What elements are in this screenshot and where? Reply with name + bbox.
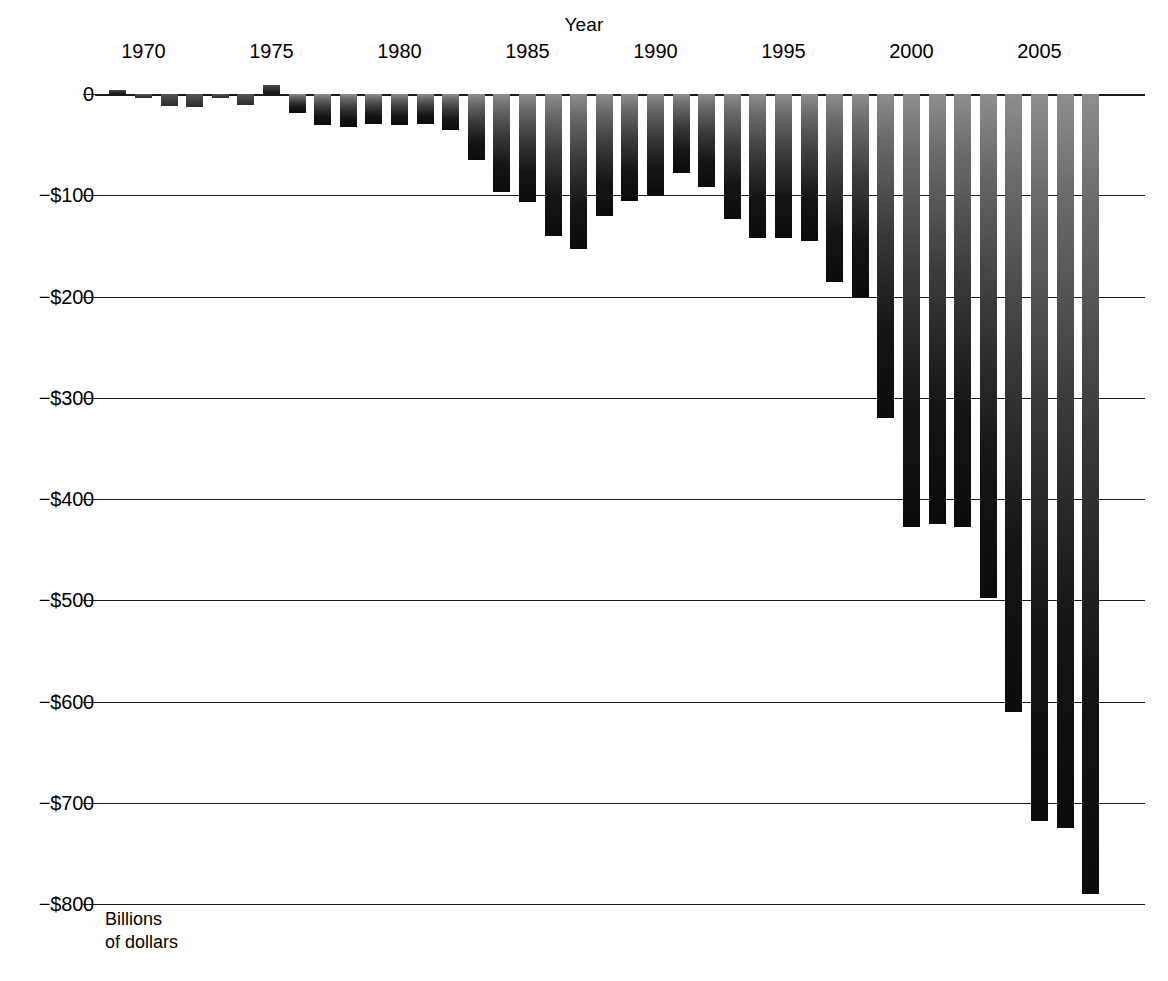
bar-1969 (109, 90, 126, 94)
bar-1983 (468, 94, 485, 160)
gridline--600 (95, 702, 1145, 703)
bar-1984 (493, 94, 510, 192)
x-tick-label-1990: 1990 (633, 40, 678, 63)
bar-1997 (826, 94, 843, 282)
y-tick-mark--500 (83, 600, 95, 601)
bar-1998 (852, 94, 869, 297)
bar-1985 (519, 94, 536, 202)
bar-2006 (1057, 94, 1074, 828)
x-tick-label-1985: 1985 (505, 40, 550, 63)
bar-1986 (545, 94, 562, 236)
y-tick-mark--800 (83, 904, 95, 905)
bar-1988 (596, 94, 613, 216)
bar-1973 (212, 94, 229, 98)
bar-1978 (340, 94, 357, 127)
x-tick-label-1995: 1995 (761, 40, 806, 63)
bar-1991 (673, 94, 690, 173)
bar-1981 (417, 94, 434, 124)
bar-2004 (1005, 94, 1022, 712)
x-tick-label-1970: 1970 (121, 40, 166, 63)
bar-1989 (621, 94, 638, 201)
bar-1987 (570, 94, 587, 249)
bar-2000 (903, 94, 920, 527)
y-tick-mark--300 (83, 398, 95, 399)
gridline--500 (95, 600, 1145, 601)
deficit-bar-chart: Year 19701975198019851990199520002005 0−… (0, 0, 1168, 981)
bar-1995 (775, 94, 792, 238)
bar-1971 (161, 94, 178, 106)
bar-1992 (698, 94, 715, 187)
bar-1994 (749, 94, 766, 238)
x-tick-label-1975: 1975 (249, 40, 294, 63)
bar-1993 (724, 94, 741, 219)
y-tick-mark--400 (83, 499, 95, 500)
bar-1972 (186, 94, 203, 107)
y-axis-unit-label: Billions of dollars (105, 908, 178, 954)
y-tick-mark-0 (83, 94, 95, 95)
bar-2002 (954, 94, 971, 527)
bar-1999 (877, 94, 894, 418)
gridline--700 (95, 803, 1145, 804)
gridline--800 (95, 904, 1145, 905)
y-tick-mark--700 (83, 803, 95, 804)
bar-1996 (801, 94, 818, 241)
bar-1970 (135, 94, 152, 98)
bar-1974 (237, 94, 254, 105)
bar-1977 (314, 94, 331, 125)
x-tick-label-2005: 2005 (1017, 40, 1062, 63)
x-tick-label-1980: 1980 (377, 40, 422, 63)
bar-2001 (929, 94, 946, 524)
bar-2007 (1082, 94, 1099, 894)
y-tick-mark--100 (83, 195, 95, 196)
bar-1976 (289, 94, 306, 113)
x-tick-label-2000: 2000 (889, 40, 934, 63)
bar-1982 (442, 94, 459, 130)
bar-1980 (391, 94, 408, 125)
bar-1979 (365, 94, 382, 124)
bar-1990 (647, 94, 664, 196)
bar-2003 (980, 94, 997, 598)
y-tick-mark--600 (83, 702, 95, 703)
x-axis-title: Year (0, 14, 1168, 36)
bar-2005 (1031, 94, 1048, 821)
bar-1975 (263, 85, 280, 94)
y-tick-mark--200 (83, 297, 95, 298)
